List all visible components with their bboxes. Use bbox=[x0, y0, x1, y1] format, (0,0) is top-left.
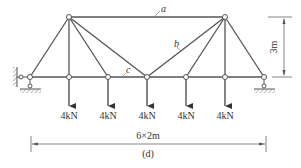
node-top-right bbox=[223, 15, 228, 20]
link-hinge bbox=[19, 75, 23, 79]
node-top-left bbox=[67, 15, 72, 20]
load-label: 4kN bbox=[60, 110, 77, 121]
truss-nodes bbox=[28, 15, 267, 80]
arrowhead-up-icon bbox=[283, 18, 286, 24]
load-labels: 4kN 4kN 4kN 4kN 4kN bbox=[60, 110, 233, 121]
wall-hatch bbox=[13, 67, 17, 87]
member-left-diagonal-3 bbox=[69, 17, 147, 77]
height-dimension-label: 3m bbox=[268, 40, 279, 53]
label-c: c bbox=[126, 64, 131, 75]
node-bottom-3 bbox=[106, 75, 111, 80]
node-bottom-2 bbox=[67, 75, 72, 80]
label-b: b bbox=[174, 38, 179, 49]
node-bottom-7 bbox=[262, 75, 267, 80]
member-left-diagonal-2 bbox=[69, 17, 108, 77]
member-right-end-diagonal bbox=[225, 17, 264, 77]
member-right-diagonal-2 bbox=[186, 17, 225, 77]
figure-caption: (d) bbox=[142, 148, 154, 160]
right-roller-support bbox=[254, 80, 275, 93]
arrowhead-left-icon bbox=[32, 143, 38, 146]
node-bottom-6 bbox=[223, 75, 228, 80]
node-bottom-4 bbox=[145, 75, 150, 80]
arrowhead-down-icon bbox=[283, 70, 286, 76]
member-left-end-diagonal bbox=[30, 17, 69, 77]
truss-diagram: a b c 4kN 4kN 4kN 4kN 4kN 3m 6×2m (d) bbox=[0, 0, 301, 168]
ground-hatch bbox=[254, 89, 275, 93]
load-arrows bbox=[69, 77, 225, 106]
arrowhead-right-icon bbox=[259, 143, 265, 146]
node-bottom-1 bbox=[28, 75, 33, 80]
ground-hatch bbox=[20, 89, 41, 93]
load-label: 4kN bbox=[99, 110, 116, 121]
load-label: 4kN bbox=[177, 110, 194, 121]
leader-a bbox=[155, 11, 160, 16]
member-b-diagonal bbox=[147, 17, 225, 77]
label-a: a bbox=[161, 3, 166, 14]
left-pin-support bbox=[13, 67, 41, 93]
member-labels: a b c bbox=[122, 3, 181, 77]
node-bottom-5 bbox=[184, 75, 189, 80]
link-hinge bbox=[28, 84, 32, 88]
load-label: 4kN bbox=[216, 110, 233, 121]
link-hinge bbox=[262, 84, 266, 88]
span-dimension-label: 6×2m bbox=[136, 130, 160, 141]
truss-members bbox=[30, 17, 264, 77]
load-label: 4kN bbox=[138, 110, 155, 121]
